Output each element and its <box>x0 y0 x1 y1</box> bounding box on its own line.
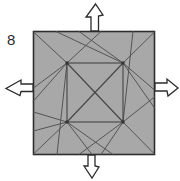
arrow-down-icon <box>84 155 99 178</box>
origami-diagram-figure: 8 <box>0 0 180 181</box>
arrow-right-icon <box>155 79 178 96</box>
inner-top-left-dot <box>65 61 68 64</box>
inner-bottom-left-dot <box>65 120 68 123</box>
inner-bottom-right-dot <box>121 120 124 123</box>
arrow-up-icon <box>86 4 103 31</box>
arrow-left-icon <box>6 80 33 96</box>
inner-top-right-dot <box>121 61 124 64</box>
crease-pattern-svg <box>0 0 180 181</box>
